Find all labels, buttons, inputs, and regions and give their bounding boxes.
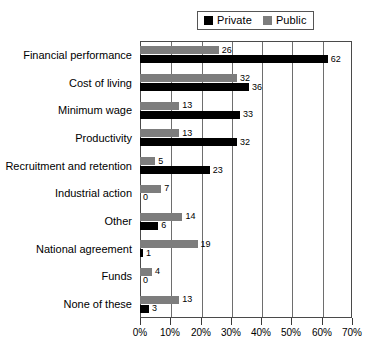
bar-value-label: 33 bbox=[243, 110, 253, 119]
bar-public: 5 bbox=[140, 157, 352, 165]
bar-groups: 26623236133313325237014619140133 bbox=[140, 41, 352, 318]
bar-group: 1332 bbox=[140, 124, 352, 152]
bar-value-label: 13 bbox=[182, 129, 192, 138]
bar-public: 32 bbox=[140, 74, 352, 82]
bar-value-label: 1 bbox=[146, 249, 151, 258]
bar-value-label: 0 bbox=[143, 193, 148, 202]
category-label: None of these bbox=[64, 290, 133, 318]
x-tick-label: 60% bbox=[312, 327, 332, 338]
bar-value-label: 13 bbox=[182, 101, 192, 110]
bar-public: 7 bbox=[140, 185, 352, 193]
bar-rect-private bbox=[140, 55, 328, 63]
bar-rect-public bbox=[140, 129, 179, 137]
bar-value-label: 36 bbox=[252, 83, 262, 92]
bar-value-label: 6 bbox=[161, 221, 166, 230]
bar-rect-private bbox=[140, 249, 143, 257]
x-tick-70% bbox=[352, 318, 353, 325]
bar-group: 40 bbox=[140, 263, 352, 291]
bar-rect-public bbox=[140, 102, 179, 110]
category-label: Industrial action bbox=[55, 180, 132, 208]
bar-rect-public bbox=[140, 74, 237, 82]
bar-rect-public bbox=[140, 157, 155, 165]
chart-legend: PrivatePublic bbox=[197, 11, 314, 30]
bar-private: 32 bbox=[140, 138, 352, 146]
x-tick-10% bbox=[170, 318, 171, 325]
bar-group: 191 bbox=[140, 235, 352, 263]
category-label: Other bbox=[104, 207, 132, 235]
x-tick-60% bbox=[322, 318, 323, 325]
bar-public: 26 bbox=[140, 46, 352, 54]
x-tick-50% bbox=[291, 318, 292, 325]
category-label: Funds bbox=[101, 263, 132, 291]
x-tick-40% bbox=[261, 318, 262, 325]
bar-rect-private bbox=[140, 305, 149, 313]
bar-group: 2662 bbox=[140, 41, 352, 69]
bar-rect-private bbox=[140, 166, 210, 174]
bar-value-label: 4 bbox=[155, 267, 160, 276]
bar-value-label: 3 bbox=[152, 304, 157, 313]
bar-public: 19 bbox=[140, 240, 352, 248]
bar-public: 13 bbox=[140, 296, 352, 304]
x-tick-20% bbox=[201, 318, 202, 325]
x-tick-label: 40% bbox=[251, 327, 271, 338]
x-tick-label: 50% bbox=[281, 327, 301, 338]
bar-value-label: 32 bbox=[240, 138, 250, 147]
bar-private: 36 bbox=[140, 83, 352, 91]
bar-value-label: 19 bbox=[201, 240, 211, 249]
legend-label: Private bbox=[217, 15, 252, 26]
legend-swatch-public bbox=[263, 16, 272, 25]
x-tick-30% bbox=[231, 318, 232, 325]
bar-group: 3236 bbox=[140, 69, 352, 97]
category-label: Productivity bbox=[75, 124, 132, 152]
bar-group: 523 bbox=[140, 152, 352, 180]
bar-private: 23 bbox=[140, 166, 352, 174]
bar-rect-public bbox=[140, 296, 179, 304]
x-tick-label: 20% bbox=[191, 327, 211, 338]
legend-item-private: Private bbox=[204, 15, 252, 26]
bar-private: 0 bbox=[140, 194, 352, 202]
bar-value-label: 32 bbox=[240, 74, 250, 83]
x-tick-label: 0% bbox=[133, 327, 147, 338]
bar-value-label: 13 bbox=[182, 295, 192, 304]
bar-group: 1333 bbox=[140, 96, 352, 124]
bar-rect-private bbox=[140, 222, 158, 230]
bar-private: 62 bbox=[140, 55, 352, 63]
category-label: Financial performance bbox=[23, 41, 132, 69]
bar-private: 33 bbox=[140, 111, 352, 119]
bar-value-label: 62 bbox=[331, 55, 341, 64]
category-label: National agreement bbox=[36, 235, 132, 263]
x-tick-label: 10% bbox=[160, 327, 180, 338]
bar-group: 70 bbox=[140, 180, 352, 208]
bar-chart: PrivatePublic Financial performanceCost … bbox=[0, 0, 381, 349]
bar-rect-private bbox=[140, 138, 237, 146]
x-tick-label: 30% bbox=[221, 327, 241, 338]
bar-value-label: 26 bbox=[222, 46, 232, 55]
bar-private: 0 bbox=[140, 277, 352, 285]
category-label: Recruitment and retention bbox=[5, 152, 132, 180]
y-axis-category-labels: Financial performanceCost of livingMinim… bbox=[0, 41, 136, 318]
bar-value-label: 7 bbox=[164, 184, 169, 193]
legend-swatch-private bbox=[204, 16, 213, 25]
legend-item-public: Public bbox=[263, 15, 307, 26]
bar-private: 6 bbox=[140, 222, 352, 230]
bar-value-label: 14 bbox=[185, 212, 195, 221]
legend-label: Public bbox=[276, 15, 307, 26]
category-label: Minimum wage bbox=[58, 96, 132, 124]
bar-rect-private bbox=[140, 83, 249, 91]
category-label: Cost of living bbox=[69, 69, 132, 97]
bar-value-label: 0 bbox=[143, 276, 148, 285]
bar-private: 1 bbox=[140, 249, 352, 257]
bar-group: 146 bbox=[140, 207, 352, 235]
bar-public: 4 bbox=[140, 268, 352, 276]
x-axis bbox=[140, 318, 352, 326]
x-tick-label: 70% bbox=[342, 327, 362, 338]
x-axis-tick-labels: 0%10%20%30%40%50%60%70% bbox=[0, 327, 381, 341]
bar-rect-public bbox=[140, 46, 219, 54]
x-tick-0% bbox=[140, 318, 141, 325]
bar-group: 133 bbox=[140, 290, 352, 318]
bar-value-label: 5 bbox=[158, 157, 163, 166]
bar-public: 14 bbox=[140, 213, 352, 221]
bar-value-label: 23 bbox=[213, 166, 223, 175]
bar-rect-private bbox=[140, 111, 240, 119]
bar-private: 3 bbox=[140, 305, 352, 313]
